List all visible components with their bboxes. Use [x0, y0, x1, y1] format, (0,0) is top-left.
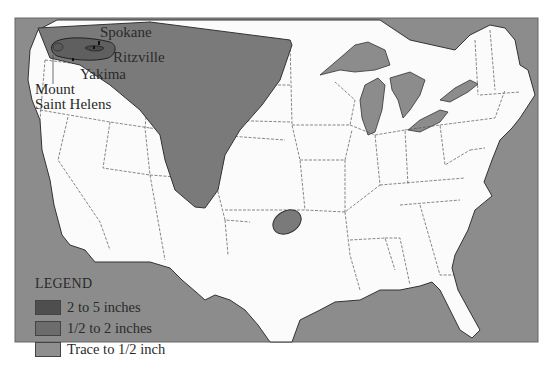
legend-label: 2 to 5 inches — [67, 299, 141, 316]
legend-swatch-trace — [35, 342, 61, 357]
label-ritzville: Ritzville — [113, 50, 165, 65]
legend-swatch-heavy — [35, 300, 61, 315]
legend-title: LEGEND — [35, 276, 165, 292]
label-mount: Mount — [35, 82, 75, 97]
label-saint-helens: Saint Helens — [35, 97, 111, 112]
legend-item-trace: Trace to 1/2 inch — [35, 339, 165, 360]
legend-label: Trace to 1/2 inch — [67, 341, 165, 358]
ash-zone-heavy-west — [53, 43, 63, 51]
legend: LEGEND 2 to 5 inches 1/2 to 2 inches Tra… — [35, 276, 165, 360]
legend-item-heavy: 2 to 5 inches — [35, 297, 165, 318]
spokane-marker — [98, 41, 100, 45]
yakima-marker — [72, 58, 74, 61]
legend-label: 1/2 to 2 inches — [67, 320, 152, 337]
legend-swatch-medium — [35, 321, 61, 336]
label-spokane: Spokane — [100, 25, 152, 40]
legend-item-medium: 1/2 to 2 inches — [35, 318, 165, 339]
label-yakima: Yakima — [80, 67, 126, 82]
ritzville-marker — [93, 46, 95, 49]
